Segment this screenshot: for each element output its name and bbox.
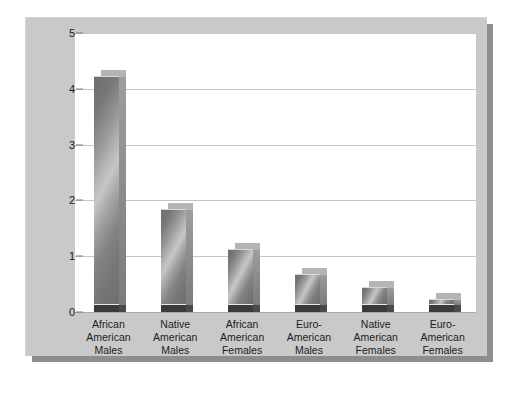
gridline-0 [75, 312, 476, 313]
x-axis-label-line: African [75, 318, 142, 331]
gridline-3 [75, 145, 476, 146]
figure-root: 012345 Number of Homicides Per 100 Perso… [0, 0, 514, 406]
x-axis-label-line: American [409, 331, 476, 344]
x-axis-label-line: Euro- [276, 318, 343, 331]
x-axis-label-6: Euro-AmericanFemales [409, 318, 476, 357]
x-axis-label-line: Females [409, 344, 476, 357]
x-axis-label-line: American [209, 331, 276, 344]
x-axis-label-line: American [142, 331, 209, 344]
gridline-4 [75, 89, 476, 90]
x-axis-label-line: Males [276, 344, 343, 357]
gridline-1 [75, 256, 476, 257]
y-tick-mark-3 [76, 144, 83, 145]
gridline-2 [75, 200, 476, 201]
y-axis-title-holder: Number of Homicides Per 100 Persons [48, 33, 62, 312]
x-axis-label-line: Males [142, 344, 209, 357]
plot-area [75, 33, 476, 312]
x-axis-label-line: Native [342, 318, 409, 331]
x-axis-label-line: Native [142, 318, 209, 331]
y-tick-mark-2 [76, 200, 83, 201]
y-tick-mark-5 [76, 33, 83, 34]
x-axis-label-line: American [276, 331, 343, 344]
x-axis-label-line: Females [209, 344, 276, 357]
x-axis-label-2: NativeAmericanMales [142, 318, 209, 357]
x-axis-label-4: Euro-AmericanMales [276, 318, 343, 357]
x-axis-labels: AfricanAmericanMalesNativeAmericanMalesA… [75, 318, 476, 364]
x-axis-label-line: American [75, 331, 142, 344]
x-axis-label-1: AfricanAmericanMales [75, 318, 142, 357]
x-axis-label-line: Euro- [409, 318, 476, 331]
y-tick-mark-4 [76, 88, 83, 89]
x-axis-label-3: AfricanAmericanFemales [209, 318, 276, 357]
x-axis-label-5: NativeAmericanFemales [342, 318, 409, 357]
y-axis-title: Number of Homicides Per 100 Persons [93, 58, 105, 288]
y-tick-mark-0 [76, 312, 83, 313]
x-axis-label-line: American [342, 331, 409, 344]
x-axis-label-line: African [209, 318, 276, 331]
y-tick-mark-1 [76, 256, 83, 257]
chart-panel: 012345 Number of Homicides Per 100 Perso… [25, 17, 487, 356]
x-axis-label-line: Males [75, 344, 142, 357]
gridline-5 [75, 33, 476, 34]
x-axis-label-line: Females [342, 344, 409, 357]
